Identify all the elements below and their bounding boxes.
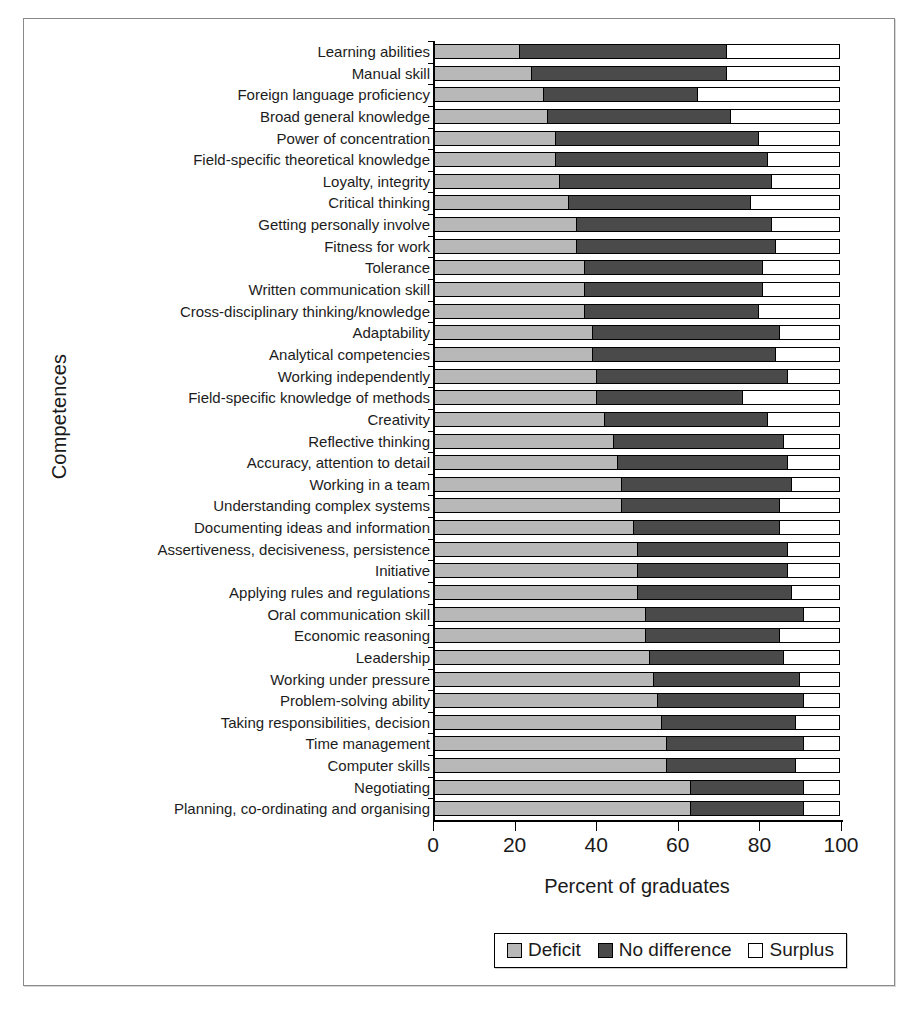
bar-segment-deficit — [434, 131, 556, 146]
bar-row: Problem-solving ability — [433, 690, 841, 712]
bar-segment-deficit — [434, 369, 597, 384]
stacked-bar — [435, 131, 840, 146]
bar-segment-deficit — [434, 260, 585, 275]
bar-segment-surplus — [750, 195, 840, 210]
figure-frame: Competences Learning abilitiesManual ski… — [23, 18, 895, 986]
y-axis-tick — [428, 279, 433, 280]
y-axis-tick — [428, 582, 433, 583]
bar-segment-surplus — [779, 325, 840, 340]
legend-item-deficit: Deficit — [507, 939, 581, 961]
y-axis-tick — [428, 63, 433, 64]
category-label: Broad general knowledge — [260, 106, 430, 128]
stacked-bar — [435, 87, 840, 102]
bar-segment-surplus — [783, 434, 840, 449]
bar-row: Reflective thinking — [433, 431, 841, 453]
bar-segment-deficit — [434, 282, 585, 297]
x-axis-tick-label: 60 — [648, 833, 708, 857]
y-axis-tick — [428, 669, 433, 670]
bar-segment-surplus — [742, 390, 840, 405]
x-axis-tick — [515, 822, 516, 831]
bar-row: Understanding complex systems — [433, 495, 841, 517]
y-axis-tick — [428, 712, 433, 713]
bar-row: Time management — [433, 733, 841, 755]
stacked-bar — [435, 736, 840, 751]
stacked-bar — [435, 44, 840, 59]
bar-segment-nodiff — [621, 477, 792, 492]
bar-segment-surplus — [726, 66, 840, 81]
bar-segment-surplus — [697, 87, 840, 102]
category-label: Planning, co-ordinating and organising — [174, 798, 430, 820]
bar-segment-nodiff — [584, 260, 764, 275]
bar-row: Manual skill — [433, 63, 841, 85]
bar-segment-nodiff — [621, 498, 780, 513]
bar-row: Computer skills — [433, 755, 841, 777]
stacked-bar — [435, 520, 840, 535]
bar-segment-surplus — [791, 477, 840, 492]
bar-row: Oral communication skill — [433, 604, 841, 626]
bar-row: Adaptability — [433, 322, 841, 344]
x-axis-tick — [433, 822, 434, 831]
bar-segment-deficit — [434, 390, 597, 405]
stacked-bar — [435, 304, 840, 319]
category-label: Working independently — [278, 366, 430, 388]
legend-label-surplus: Surplus — [769, 939, 833, 961]
stacked-bar — [435, 715, 840, 730]
stacked-bar — [435, 563, 840, 578]
category-label: Taking responsibilities, decision — [221, 712, 430, 734]
bar-segment-deficit — [434, 152, 556, 167]
bar-row: Creativity — [433, 409, 841, 431]
bar-segment-surplus — [762, 282, 840, 297]
y-axis-tick — [428, 539, 433, 540]
bar-segment-deficit — [434, 304, 585, 319]
bar-segment-deficit — [434, 650, 650, 665]
category-label: Applying rules and regulations — [229, 582, 430, 604]
bar-segment-deficit — [434, 585, 638, 600]
bar-segment-deficit — [434, 498, 622, 513]
y-axis-tick — [428, 625, 433, 626]
bar-segment-nodiff — [637, 585, 792, 600]
category-label: Loyalty, integrity — [323, 171, 430, 193]
stacked-bar — [435, 498, 840, 513]
bar-segment-nodiff — [568, 195, 752, 210]
bar-segment-surplus — [771, 217, 840, 232]
category-label: Documenting ideas and information — [194, 517, 430, 539]
category-label: Problem-solving ability — [280, 690, 430, 712]
bar-segment-surplus — [730, 109, 840, 124]
y-axis-tick — [428, 171, 433, 172]
y-axis-tick — [428, 798, 433, 799]
y-axis-tick — [428, 301, 433, 302]
legend-label-no-difference: No difference — [619, 939, 732, 961]
y-axis-tick — [428, 214, 433, 215]
bar-segment-deficit — [434, 477, 622, 492]
y-axis-title: Competences — [48, 327, 71, 507]
stacked-bar — [435, 780, 840, 795]
plot-area: Learning abilitiesManual skillForeign la… — [433, 41, 841, 820]
stacked-bar — [435, 282, 840, 297]
bar-segment-surplus — [791, 585, 840, 600]
bar-segment-nodiff — [690, 780, 804, 795]
category-label: Negotiating — [354, 777, 430, 799]
bar-row: Broad general knowledge — [433, 106, 841, 128]
stacked-bar — [435, 412, 840, 427]
stacked-bar — [435, 607, 840, 622]
legend-swatch-no-difference — [598, 943, 613, 958]
y-axis-tick — [428, 387, 433, 388]
bar-segment-nodiff — [592, 325, 780, 340]
legend-swatch-deficit — [507, 943, 522, 958]
bar-segment-nodiff — [519, 44, 727, 59]
bar-segment-nodiff — [576, 217, 772, 232]
category-label: Adaptability — [352, 322, 430, 344]
bar-segment-surplus — [758, 131, 840, 146]
bar-segment-nodiff — [592, 347, 776, 362]
bar-segment-nodiff — [617, 455, 788, 470]
y-axis-tick — [428, 755, 433, 756]
stacked-bar — [435, 801, 840, 816]
bar-segment-nodiff — [633, 520, 780, 535]
y-axis-tick — [428, 517, 433, 518]
y-axis-tick — [428, 733, 433, 734]
stacked-bar — [435, 693, 840, 708]
bar-row: Leadership — [433, 647, 841, 669]
bar-segment-surplus — [779, 520, 840, 535]
category-label: Field-specific theoretical knowledge — [193, 149, 430, 171]
stacked-bar — [435, 477, 840, 492]
